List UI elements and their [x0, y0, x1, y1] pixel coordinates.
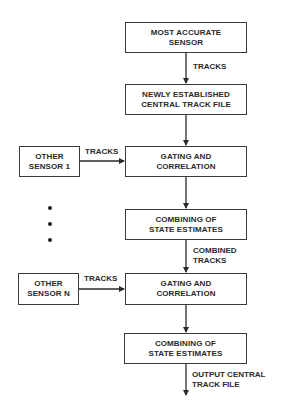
ellipsis-dot-icon: [48, 238, 52, 242]
box-label: MOST ACCURATE SENSOR: [151, 28, 222, 48]
box-other-sensor-1: OTHER SENSOR 1: [19, 146, 80, 177]
box-newly-established-track-file: NEWLY ESTABLISHED CENTRAL TRACK FILE: [125, 84, 247, 115]
box-gating-correlation-n: GATING AND CORRELATION: [125, 273, 247, 305]
box-label: NEWLY ESTABLISHED CENTRAL TRACK FILE: [141, 90, 231, 110]
box-label: COMBINING OF STATE ESTIMATES: [149, 215, 223, 235]
box-label: OTHER SENSOR N: [27, 279, 70, 299]
edge-label-tracks-sensor-1: TRACKS: [85, 147, 118, 157]
edge-label-combined-tracks: COMBINED TRACKS: [193, 246, 237, 266]
ellipsis-dot-icon: [48, 206, 52, 210]
box-other-sensor-n: OTHER SENSOR N: [18, 273, 79, 305]
box-combining-state-estimates-n: COMBINING OF STATE ESTIMATES: [124, 333, 247, 364]
box-label: GATING AND CORRELATION: [156, 152, 215, 172]
edge-label-tracks-sensor-n: TRACKS: [84, 274, 117, 284]
box-label: OTHER SENSOR 1: [29, 152, 70, 172]
box-combining-state-estimates-1: COMBINING OF STATE ESTIMATES: [125, 209, 247, 240]
box-label: GATING AND CORRELATION: [156, 279, 215, 299]
box-gating-correlation-1: GATING AND CORRELATION: [125, 146, 247, 177]
box-label: COMBINING OF STATE ESTIMATES: [149, 339, 223, 359]
ellipsis-dot-icon: [48, 222, 52, 226]
box-most-accurate-sensor: MOST ACCURATE SENSOR: [125, 22, 247, 53]
edge-label-tracks-top: TRACKS: [193, 62, 226, 72]
edge-label-output-central-track-file: OUTPUT CENTRAL TRACK FILE: [192, 370, 265, 390]
